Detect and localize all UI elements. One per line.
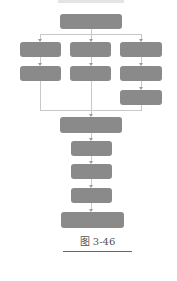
caption-underline bbox=[63, 251, 132, 252]
node-step-a bbox=[71, 141, 112, 156]
node-branch-3-step-2 bbox=[120, 66, 162, 81]
figure-caption: 图 3-46 bbox=[63, 233, 132, 248]
node-branch-2-step-2 bbox=[70, 66, 111, 81]
node-top bbox=[60, 14, 122, 29]
connector bbox=[40, 81, 41, 110]
node-step-b bbox=[71, 164, 112, 179]
node-merge bbox=[60, 117, 122, 133]
node-step-c bbox=[71, 188, 112, 203]
node-branch-1-step-1 bbox=[20, 42, 61, 57]
node-branch-3-step-1 bbox=[120, 42, 162, 57]
node-branch-2-step-1 bbox=[70, 42, 111, 57]
top-text-fragment bbox=[58, 0, 124, 3]
connector bbox=[40, 110, 142, 111]
node-branch-3-step-3 bbox=[120, 90, 162, 105]
node-final bbox=[61, 212, 124, 228]
node-branch-1-step-2 bbox=[20, 66, 61, 81]
